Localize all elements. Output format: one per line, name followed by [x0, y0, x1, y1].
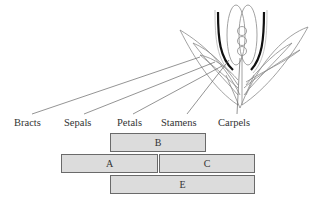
gene-box-a: A [61, 154, 158, 173]
label-bracts: Bracts [14, 117, 41, 128]
leader-lines [32, 57, 240, 114]
leader-stamens [187, 60, 229, 114]
label-stamens: Stamens [161, 117, 197, 128]
gene-box-c: C [159, 154, 255, 173]
leader-petals [133, 66, 222, 114]
leader-bracts [32, 57, 200, 114]
flower-outline [180, 5, 308, 108]
ovule [238, 47, 247, 56]
label-sepals: Sepals [64, 117, 91, 128]
label-carpels: Carpels [218, 117, 250, 128]
petal-left [200, 55, 238, 88]
leader-sepals [84, 62, 215, 114]
stamen-right [251, 12, 264, 70]
leader-carpels [237, 58, 240, 114]
label-petals: Petals [117, 117, 142, 128]
gene-box-e: E [110, 175, 255, 194]
stamen-left [218, 12, 233, 70]
gene-box-b: B [110, 133, 206, 152]
